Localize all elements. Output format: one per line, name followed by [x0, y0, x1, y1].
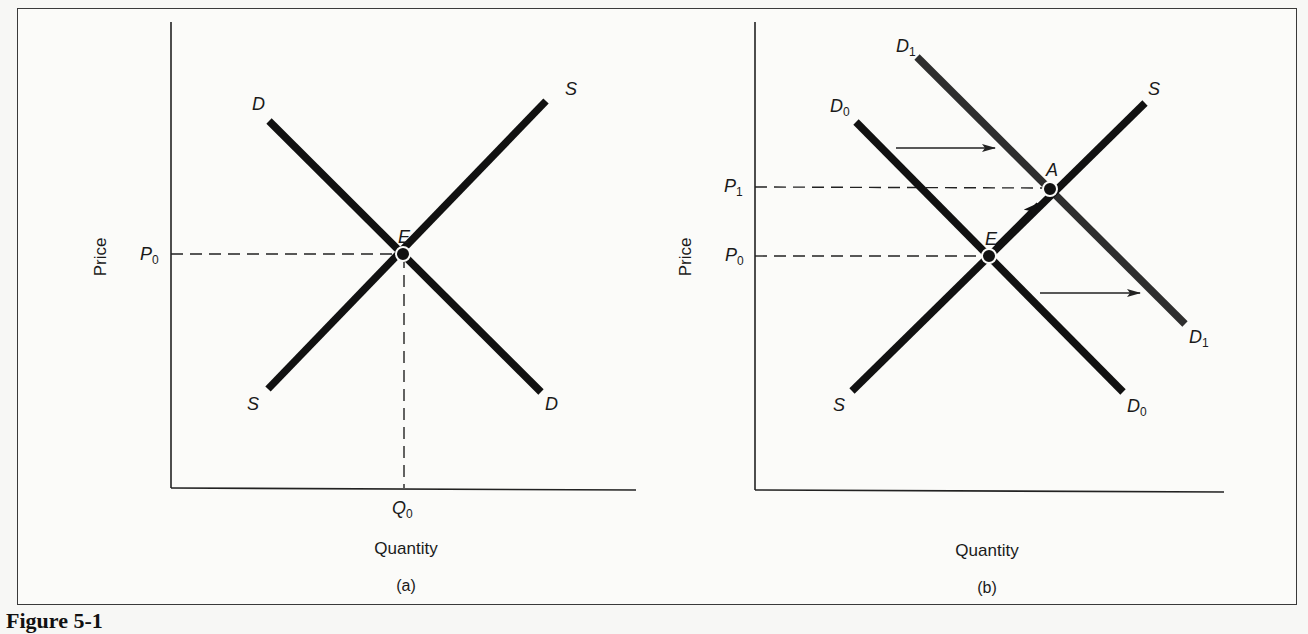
panel-tag-a: (a) — [396, 577, 416, 594]
equilibrium-point — [396, 247, 410, 261]
x-axis-title: Quantity — [955, 541, 1019, 560]
panel-a: D S S D E P0 Q0 Price Quantity (a) — [91, 22, 636, 594]
supply-curve — [852, 103, 1145, 391]
label-p1: P1 — [724, 176, 743, 199]
figure-caption: Figure 5-1 — [6, 608, 103, 634]
label-d-top: D — [252, 94, 265, 114]
label-p0: P0 — [725, 245, 744, 268]
label-d-bottom: D — [545, 394, 558, 414]
label-d1-bottom: D1 — [1189, 327, 1209, 350]
panel-b: D1 D0 S S D0 D1 E A P1 P0 Price Quantity… — [676, 22, 1224, 596]
label-s-bottom: S — [247, 394, 259, 414]
p1-guide — [755, 187, 1044, 188]
x-axis — [171, 488, 636, 490]
equilibrium-point-e — [982, 249, 996, 263]
y-axis-title: Price — [91, 238, 110, 277]
label-s-bottom: S — [833, 395, 845, 415]
label-e: E — [398, 227, 411, 247]
label-e: E — [985, 229, 998, 249]
label-d1-top: D1 — [896, 36, 916, 59]
label-q0: Q0 — [392, 498, 413, 521]
equilibrium-point-a — [1043, 182, 1057, 196]
x-axis — [755, 490, 1224, 492]
label-s-top: S — [1148, 79, 1160, 99]
x-axis-title: Quantity — [374, 539, 438, 558]
panel-tag-b: (b) — [977, 579, 997, 596]
label-a: A — [1045, 160, 1058, 180]
y-axis-title: Price — [676, 238, 695, 277]
movement-arrow — [996, 204, 1038, 246]
label-d0-bottom: D0 — [1127, 396, 1147, 419]
label-s-top: S — [565, 79, 577, 99]
label-p0: P0 — [140, 244, 159, 267]
label-d0-top: D0 — [830, 96, 850, 119]
